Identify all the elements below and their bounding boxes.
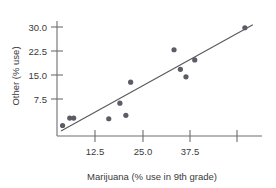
x-tick-label-37-5: 37.5 [181, 146, 200, 157]
x-tick-label-12-5: 12.5 [86, 146, 105, 157]
y-tick-label-15: 15.0 [29, 70, 48, 81]
data-point [123, 113, 128, 118]
data-points-group [60, 25, 248, 128]
y-axis-title: Other (% use) [10, 46, 21, 105]
data-point [171, 47, 176, 52]
data-point [183, 74, 188, 79]
x-axis-title: Marijuana (% use in 9th grade) [87, 171, 217, 182]
y-tick-label-22-5: 22.5 [29, 46, 48, 57]
data-point [106, 116, 111, 121]
data-point [60, 123, 65, 128]
y-tick-label-7-5: 7.5 [34, 94, 47, 105]
data-point [242, 25, 247, 30]
regression-line [61, 25, 253, 131]
data-point [178, 67, 183, 72]
data-point [192, 57, 197, 62]
y-tick-label-30: 30.0 [29, 22, 48, 33]
data-point [128, 80, 133, 85]
scatter-plot-figure: 30.0 22.5 15.0 7.5 12.5 25.0 37.5 Mariju… [0, 0, 276, 188]
x-tick-label-25: 25.0 [134, 146, 153, 157]
data-point [117, 101, 122, 106]
chart-canvas: 30.0 22.5 15.0 7.5 12.5 25.0 37.5 Mariju… [0, 0, 276, 188]
data-point [71, 115, 76, 120]
